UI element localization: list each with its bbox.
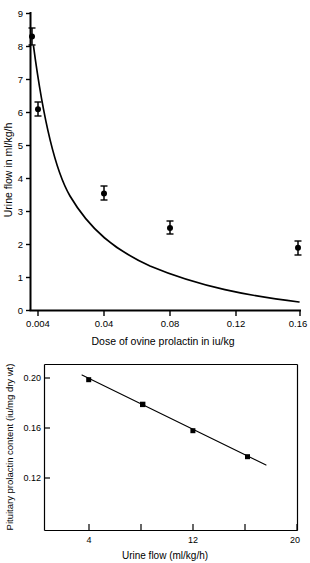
top-ytick-1: 1 [18,272,23,283]
bottom-ytick-2: 0.20 [23,373,41,383]
chart-panel-bottom: 0.12 0.16 0.20 4 12 20 [0,350,310,563]
top-xtick-3: 0.12 [227,318,246,329]
top-fit-curve [34,46,300,302]
top-chart-svg: 0 1 2 3 4 5 6 7 8 9 0.004 [0,0,310,350]
top-data-point-2 [35,102,42,116]
bottom-ytick-0: 0.12 [23,473,41,483]
top-y-tick-labels: 0 1 2 3 4 5 6 7 8 9 [18,8,23,316]
bottom-data-point-2 [140,402,145,407]
bottom-data-point-1 [86,377,91,382]
top-ytick-3: 3 [18,206,23,217]
top-ytick-5: 5 [18,140,23,151]
bottom-xtick-4: 20 [290,535,300,545]
top-x-axis-title: Dose of ovine prolactin in iu/kg [92,335,235,347]
chart-panel-top: 0 1 2 3 4 5 6 7 8 9 0.004 [0,0,310,350]
top-ytick-9: 9 [18,8,23,19]
top-xtick-4: 0.16 [289,318,308,329]
top-xtick-2: 0.08 [161,318,180,329]
bottom-data-point-3 [190,428,195,433]
figure-container: 0 1 2 3 4 5 6 7 8 9 0.004 [0,0,310,563]
bottom-x-ticks [89,524,297,531]
top-data-point-4 [167,221,174,234]
top-ytick-8: 8 [18,41,23,52]
bottom-x-tick-labels: 4 12 20 [86,535,300,545]
top-y-axis-title: Urine flow in ml/kg/h [2,123,14,218]
top-xtick-1: 0.04 [95,318,114,329]
bottom-ytick-1: 0.16 [23,423,41,433]
top-data-point-3 [101,186,108,200]
top-ytick-7: 7 [18,74,23,85]
bottom-chart-svg: 0.12 0.16 0.20 4 12 20 [0,350,310,563]
bottom-xtick-0: 4 [86,535,91,545]
bottom-y-ticks [45,378,51,478]
top-data-point-5 [295,241,302,255]
bottom-fit-line [82,375,266,465]
bottom-y-axis-title: Pituitary prolactin content (iu/mg dry w… [4,364,15,531]
top-xtick-0: 0.004 [26,318,50,329]
top-x-tick-labels: 0.004 0.04 0.08 0.12 0.16 [26,318,307,329]
top-ytick-0: 0 [18,305,23,316]
bottom-xtick-2: 12 [188,535,198,545]
top-data-points [29,28,302,255]
top-ytick-4: 4 [18,173,23,184]
bottom-axes-frame [45,365,298,531]
bottom-x-axis-title: Urine flow (ml/kg/h) [122,550,208,561]
bottom-data-point-4 [245,454,250,459]
bottom-y-tick-labels: 0.12 0.16 0.20 [23,373,41,483]
top-ytick-2: 2 [18,239,23,250]
top-ytick-6: 6 [18,107,23,118]
